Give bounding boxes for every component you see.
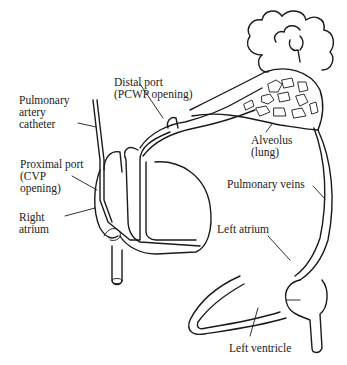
leader-left-ventricle: [250, 308, 258, 336]
label-left-atrium: Left atrium: [217, 223, 269, 235]
label-distal-port: Distal port (PCWP opening): [114, 76, 192, 100]
label-alveolus: Alveolus (lung): [251, 134, 293, 158]
leader-left-atrium: [268, 236, 290, 260]
lung-lobes: [248, 11, 334, 72]
label-left-ventricle: Left ventricle: [229, 342, 291, 354]
alveolar-bed: [190, 69, 323, 130]
leader-right-atrium: [65, 208, 95, 216]
leader-pulmonary-veins: [313, 186, 325, 199]
label-pulmonary-veins: Pulmonary veins: [227, 178, 305, 190]
leader-pa-catheter: [78, 123, 96, 127]
label-pulmonary-artery-catheter: Pulmonary artery catheter: [19, 94, 69, 130]
leader-alveolus: [266, 124, 272, 132]
pulmonary-vein: [295, 128, 332, 280]
cardiopulmonary-diagram: Pulmonary artery catheter Proximal port …: [0, 0, 347, 365]
catheter: [93, 100, 170, 240]
label-right-atrium: Right atrium: [19, 211, 49, 235]
right-heart: [95, 148, 211, 285]
label-proximal-port: Proximal port (CVP opening): [20, 158, 84, 194]
